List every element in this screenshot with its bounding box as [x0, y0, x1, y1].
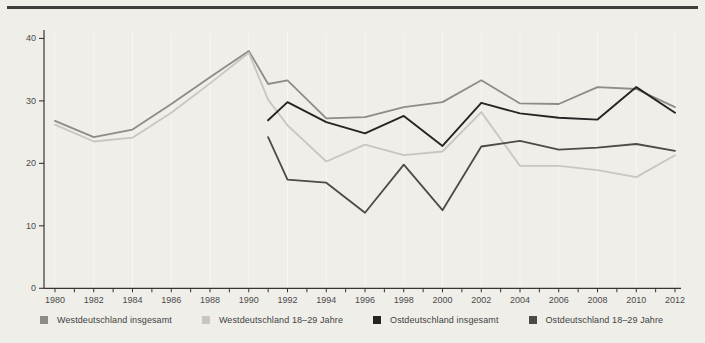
- x-tick-label: 1992: [277, 295, 297, 305]
- legend-label-ost-insgesamt: Ostdeutschland insgesamt: [390, 315, 498, 325]
- x-tick-label: 1996: [355, 295, 375, 305]
- x-tick-label: 2000: [432, 295, 452, 305]
- x-tick-label: 2004: [510, 295, 530, 305]
- x-tick-label: 1990: [239, 295, 259, 305]
- x-tick-label: 1994: [316, 295, 336, 305]
- chart-legend: Westdeutschland insgesamt Westdeutschlan…: [40, 313, 663, 327]
- series-line-3: [268, 137, 675, 213]
- y-tick-label: 40: [26, 33, 36, 43]
- legend-item-west-18-29: Westdeutschland 18–29 Jahre: [202, 315, 343, 325]
- y-tick-label: 30: [26, 96, 36, 106]
- x-tick-label: 2012: [665, 295, 685, 305]
- x-tick-label: 1984: [122, 295, 142, 305]
- legend-item-west-insgesamt: Westdeutschland insgesamt: [40, 315, 172, 325]
- legend-swatch-west-18-29: [202, 316, 210, 324]
- legend-item-ost-insgesamt: Ostdeutschland insgesamt: [373, 315, 498, 325]
- x-tick-label: 1986: [161, 295, 181, 305]
- y-tick-label: 10: [26, 221, 36, 231]
- legend-swatch-ost-18-29: [529, 316, 537, 324]
- chart-page: 0102030401980198219841986198819901992199…: [0, 0, 705, 343]
- x-tick-label: 2010: [626, 295, 646, 305]
- x-tick-label: 1982: [84, 295, 104, 305]
- y-tick-label: 0: [31, 283, 36, 293]
- legend-label-west-insgesamt: Westdeutschland insgesamt: [57, 315, 172, 325]
- x-tick-label: 1980: [45, 295, 65, 305]
- axes: 0102030401980198219841986198819901992199…: [26, 30, 685, 305]
- x-tick-label: 2006: [549, 295, 569, 305]
- y-tick-label: 20: [26, 158, 36, 168]
- x-tick-label: 2002: [471, 295, 491, 305]
- legend-swatch-ost-insgesamt: [373, 316, 381, 324]
- legend-item-ost-18-29: Ostdeutschland 18–29 Jahre: [529, 315, 664, 325]
- x-tick-label: 1988: [200, 295, 220, 305]
- legend-label-west-18-29: Westdeutschland 18–29 Jahre: [219, 315, 343, 325]
- legend-label-ost-18-29: Ostdeutschland 18–29 Jahre: [546, 315, 664, 325]
- x-tick-label: 2008: [587, 295, 607, 305]
- legend-swatch-west-insgesamt: [40, 316, 48, 324]
- series-line-2: [268, 87, 675, 146]
- gridlines: [55, 33, 675, 287]
- x-tick-label: 1998: [394, 295, 414, 305]
- line-chart: 0102030401980198219841986198819901992199…: [0, 0, 705, 343]
